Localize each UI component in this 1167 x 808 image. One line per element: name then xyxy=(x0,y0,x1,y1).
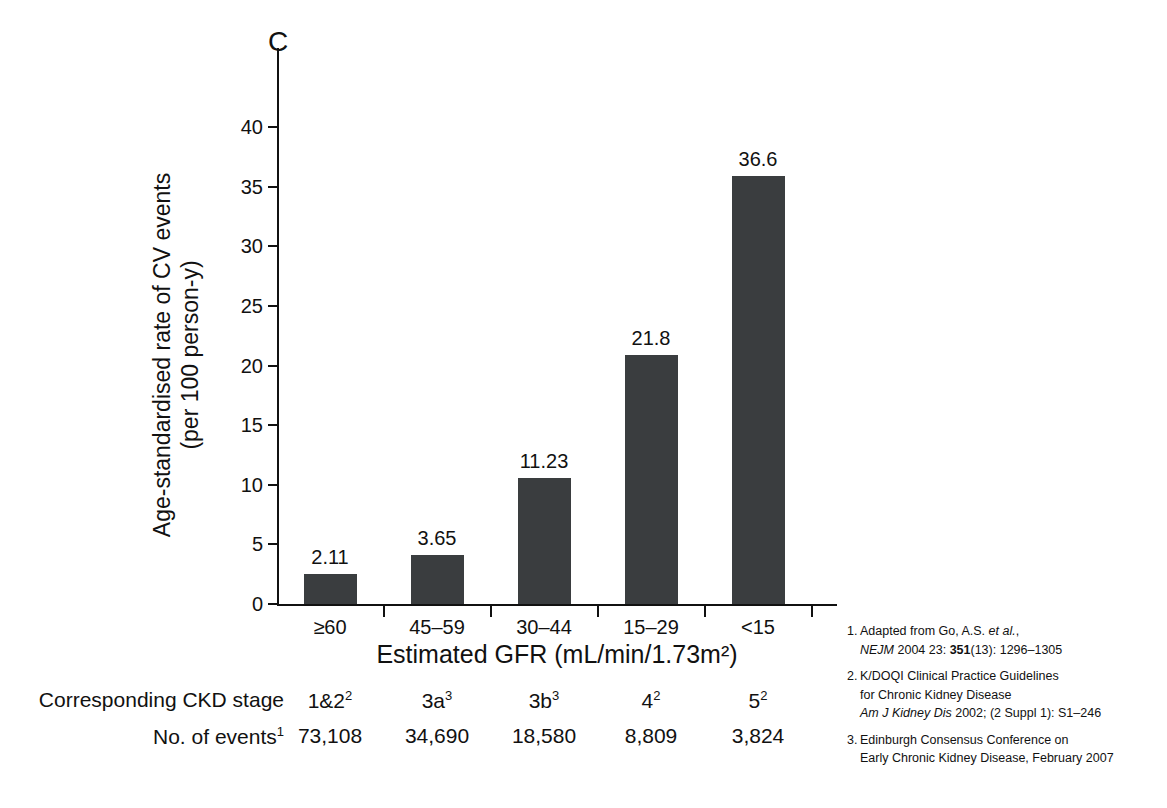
x-tick xyxy=(704,606,706,617)
x-tick xyxy=(597,606,599,617)
footnote: 2.K/DOQI Clinical Practice Guidelinesfor… xyxy=(847,667,1159,723)
y-tick-label: 30 xyxy=(241,235,263,258)
table-cell: 8,809 xyxy=(625,724,678,748)
footnote-text: (13): 1296–1305 xyxy=(971,643,1063,657)
table-row-label: Corresponding CKD stage xyxy=(34,688,284,712)
table-cell: 73,108 xyxy=(298,724,362,748)
y-axis-title-line2: (per 100 person-y) xyxy=(176,120,204,590)
table-cell: 52 xyxy=(749,688,768,713)
superscript: 2 xyxy=(345,688,352,703)
table-cell: 3b3 xyxy=(529,688,560,713)
y-tick-30: 30 xyxy=(268,245,277,247)
footnote-text: 351 xyxy=(950,643,971,657)
y-tick-35: 35 xyxy=(268,186,277,188)
x-axis-line xyxy=(277,604,837,606)
y-tick-label: 35 xyxy=(241,175,263,198)
footnote-number: 2. xyxy=(847,667,857,686)
bar: 36.6 xyxy=(732,176,785,604)
bar-chart-plot-area: 0510152025303540 2.113.6511.2321.836.6 xyxy=(277,48,837,606)
bar-value-label: 36.6 xyxy=(739,148,778,171)
x-tick xyxy=(383,606,385,617)
footnote-text: NEJM xyxy=(860,643,894,657)
table-row: Corresponding CKD stage1&223a33b34252 xyxy=(0,688,840,724)
superscript: 2 xyxy=(653,688,660,703)
x-category-label: 30–44 xyxy=(516,616,572,639)
footnote-line: Edinburgh Consensus Conference on xyxy=(860,731,1159,750)
footnote-text: for Chronic Kidney Disease xyxy=(860,688,1011,702)
y-tick-0: 0 xyxy=(268,603,277,605)
footnote-line: for Chronic Kidney Disease xyxy=(860,686,1159,705)
footnote-text: 2004 23: xyxy=(894,643,950,657)
footnote-text: Am J Kidney Dis xyxy=(860,706,952,720)
footnote-text: K/DOQI Clinical Practice Guidelines xyxy=(860,669,1059,683)
footnote-line: K/DOQI Clinical Practice Guidelines xyxy=(860,667,1159,686)
x-category-label: <15 xyxy=(741,616,775,639)
bar-value-label: 2.11 xyxy=(311,546,348,569)
x-category-label: 45–59 xyxy=(409,616,465,639)
x-axis-title: Estimated GFR (mL/min/1.73m²) xyxy=(277,640,837,669)
footnote-line: Adapted from Go, A.S. et al., xyxy=(860,622,1159,641)
y-tick-10: 10 xyxy=(268,484,277,486)
superscript: 3 xyxy=(552,688,559,703)
footnotes-list: 1.Adapted from Go, A.S. et al.,NEJM 2004… xyxy=(847,622,1159,776)
footnote-text: 2002; (2 Suppl 1): S1–246 xyxy=(952,706,1101,720)
footnote: 3.Edinburgh Consensus Conference onEarly… xyxy=(847,731,1159,768)
superscript: 2 xyxy=(760,688,767,703)
y-tick-25: 25 xyxy=(268,305,277,307)
y-tick-20: 20 xyxy=(268,365,277,367)
bar-value-label: 11.23 xyxy=(520,450,569,473)
y-tick-label: 0 xyxy=(252,593,263,616)
table-cell: 3a3 xyxy=(422,688,453,713)
footnote-text: Adapted from Go, A.S. xyxy=(860,624,989,638)
table-row: No. of events173,10834,69018,5808,8093,8… xyxy=(0,724,840,760)
x-tick xyxy=(811,606,813,617)
table-cell: 1&22 xyxy=(308,688,353,713)
table-cell: 3,824 xyxy=(732,724,785,748)
y-tick-label: 5 xyxy=(252,533,263,556)
footnote-line: Early Chronic Kidney Disease, February 2… xyxy=(860,749,1159,768)
ckd-stage-table: Corresponding CKD stage1&223a33b34252No.… xyxy=(0,688,840,760)
footnote: 1.Adapted from Go, A.S. et al.,NEJM 2004… xyxy=(847,622,1159,659)
footnote-text: Edinburgh Consensus Conference on xyxy=(860,733,1068,747)
table-cell: 34,690 xyxy=(405,724,469,748)
y-tick-15: 15 xyxy=(268,424,277,426)
x-category-label: ≥60 xyxy=(313,616,346,639)
footnote-line: Am J Kidney Dis 2002; (2 Suppl 1): S1–24… xyxy=(860,704,1159,723)
bar: 11.23 xyxy=(518,478,571,604)
bar: 3.65 xyxy=(411,555,464,604)
bar-value-label: 21.8 xyxy=(632,327,671,350)
footnote-text: et al. xyxy=(989,624,1016,638)
y-tick-40: 40 xyxy=(268,126,277,128)
x-tick xyxy=(490,606,492,617)
table-cell: 42 xyxy=(642,688,661,713)
footnote-number: 3. xyxy=(847,731,857,750)
footnote-line: NEJM 2004 23: 351(13): 1296–1305 xyxy=(860,641,1159,660)
footnote-text: , xyxy=(1016,624,1019,638)
bar: 21.8 xyxy=(625,355,678,604)
x-category-label: 15–29 xyxy=(623,616,679,639)
y-tick-label: 40 xyxy=(241,116,263,139)
footnote-number: 1. xyxy=(847,622,857,641)
superscript: 1 xyxy=(277,724,284,739)
bar: 2.11 xyxy=(304,574,357,604)
y-tick-label: 10 xyxy=(241,473,263,496)
footnote-text: Early Chronic Kidney Disease, February 2… xyxy=(860,751,1114,765)
bar-value-label: 3.65 xyxy=(418,527,457,550)
y-tick-label: 15 xyxy=(241,414,263,437)
y-axis-title-line1: Age-standardised rate of CV events xyxy=(148,120,176,590)
table-row-label: No. of events1 xyxy=(34,724,284,749)
superscript: 3 xyxy=(445,688,452,703)
y-axis-title: Age-standardised rate of CV events (per … xyxy=(148,120,222,590)
y-axis-line xyxy=(277,48,279,606)
table-cell: 18,580 xyxy=(512,724,576,748)
y-tick-label: 25 xyxy=(241,294,263,317)
y-tick-label: 20 xyxy=(241,354,263,377)
y-tick-5: 5 xyxy=(268,543,277,545)
